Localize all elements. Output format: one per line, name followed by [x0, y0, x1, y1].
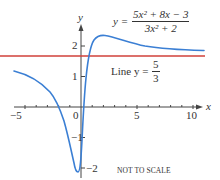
equation-denominator: 3x² + 2: [145, 22, 177, 34]
not-to-scale-note: NOT TO SCALE: [117, 167, 171, 175]
line-label: Line y =: [111, 66, 148, 77]
y-tick-label-1: 1: [72, 71, 78, 82]
line-denominator: 3: [153, 72, 159, 84]
equation-fraction: 5x² + 8x − 3 3x² + 2: [132, 9, 189, 34]
y-tick-label-2: 2: [72, 40, 78, 51]
y-axis-arrow-icon: [79, 24, 84, 31]
line-fraction: 5 3: [152, 59, 160, 84]
line-numerator: 5: [152, 59, 160, 72]
x-axis-label: x: [206, 101, 211, 112]
y-tick-label-neg2: −2: [86, 163, 98, 174]
equation-numerator: 5x² + 8x − 3: [132, 9, 189, 22]
x-tick-label-neg5: −5: [10, 110, 22, 121]
x-axis-arrow-icon: [196, 105, 203, 110]
y-tick-label-neg1: −1: [71, 132, 83, 143]
x-tick-label-10: 10: [186, 110, 197, 121]
y-axis-label: y: [78, 12, 83, 23]
x-tick-label-5: 5: [134, 110, 140, 121]
x-tick-label-0: 0: [73, 110, 79, 121]
equation-lhs: y =: [113, 16, 128, 27]
